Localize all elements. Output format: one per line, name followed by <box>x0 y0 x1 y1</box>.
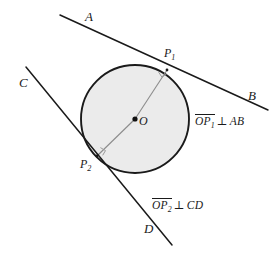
geometry-figure: A B C D O P1 P2 OP1⊥AB OP2⊥CD <box>0 0 278 260</box>
annotation-perp-ab: OP1⊥AB <box>195 114 244 131</box>
circle-center-dot <box>132 116 137 121</box>
annotation-perp-ab-segment-main: OP <box>195 115 211 127</box>
annotation-perp-cd-segment: OP2 <box>152 198 172 215</box>
annotation-perp-ab-segment: OP1 <box>195 114 215 131</box>
label-point-p1-sub: 1 <box>171 53 175 62</box>
annotation-perp-cd: OP2⊥CD <box>152 198 203 215</box>
label-point-p1: P1 <box>164 47 175 63</box>
perpendicular-symbol-ab: ⊥ <box>215 115 230 127</box>
annotation-perp-cd-segment-main: OP <box>152 199 168 211</box>
perpendicular-symbol-cd: ⊥ <box>172 199 187 211</box>
tangent-point-p1-dot <box>166 69 169 72</box>
label-point-a: A <box>85 10 93 23</box>
label-point-d: D <box>144 222 153 235</box>
label-point-c: C <box>19 76 28 89</box>
annotation-perp-ab-line: AB <box>230 115 244 127</box>
tangent-point-p2-dot <box>96 155 99 158</box>
label-point-p2: P2 <box>80 158 91 174</box>
annotation-perp-cd-line: CD <box>187 199 203 211</box>
label-center-o: O <box>139 115 148 127</box>
label-point-b: B <box>248 89 256 102</box>
label-point-p2-sub: 2 <box>87 164 91 173</box>
